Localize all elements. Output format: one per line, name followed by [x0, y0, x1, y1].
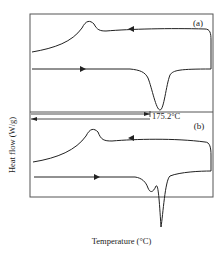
panel-a-label: (a) [193, 18, 203, 28]
arrow-right-icon [94, 174, 100, 180]
panel-a-cooling-curve [32, 21, 211, 62]
panel-b-heating-curve [34, 171, 211, 227]
panel-a-heating-curve [32, 62, 211, 110]
arrow-left-icon [128, 26, 134, 32]
y-axis-label-wrap: Heat flow (W/g) [2, 100, 22, 190]
x-axis-label: Temperature (°C) [29, 236, 214, 246]
arrow-left-icon [31, 117, 37, 121]
dsc-chart: (a) (b) 175.2°C [0, 0, 224, 255]
y-axis-label: Heat flow (W/g) [7, 117, 17, 173]
panel-b-cooling-curve [33, 129, 211, 171]
plot-frame [30, 14, 213, 197]
temperature-annotation: 175.2°C [152, 111, 181, 121]
arrow-right-icon [144, 112, 150, 116]
arrow-right-icon [80, 66, 86, 72]
panel-b-label: (b) [194, 121, 205, 131]
